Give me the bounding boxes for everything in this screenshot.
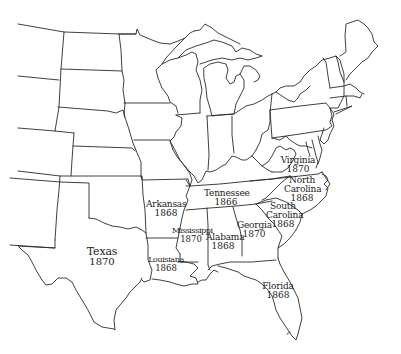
state-year: 1870 bbox=[82, 257, 122, 267]
state-year: 1870 bbox=[280, 165, 316, 174]
label-louisiana: Louisiana 1868 bbox=[146, 256, 186, 273]
state-year: 1868 bbox=[262, 291, 294, 300]
state-year: 1868 bbox=[146, 264, 186, 273]
state-year: 1868 bbox=[284, 194, 320, 203]
state-year: 1866 bbox=[204, 198, 248, 207]
label-north-carolina: North Carolina 1868 bbox=[284, 176, 320, 203]
plains-states-boundaries bbox=[10, 24, 142, 248]
label-texas: Texas 1870 bbox=[82, 246, 122, 267]
state-year: 1870 bbox=[172, 235, 210, 244]
state-year: 1868 bbox=[206, 242, 240, 251]
label-tennessee: Tennessee 1866 bbox=[204, 189, 248, 207]
label-arkansas: Arkansas 1868 bbox=[146, 200, 186, 218]
state-boundaries bbox=[0, 0, 401, 354]
state-year: 1870 bbox=[237, 230, 271, 239]
upper-midwest-boundaries bbox=[119, 24, 262, 158]
label-south-carolina: South Carolina 1868 bbox=[266, 202, 300, 229]
state-year: 1868 bbox=[146, 209, 186, 218]
state-year: 1868 bbox=[266, 220, 300, 229]
label-virginia: Virginia 1870 bbox=[280, 156, 316, 174]
michigan-boundaries bbox=[204, 62, 260, 116]
label-florida: Florida 1868 bbox=[262, 282, 294, 300]
label-mississippi: Mississippi 1870 bbox=[172, 227, 210, 244]
northeast-boundaries bbox=[270, 20, 378, 144]
reconstruction-readmission-map: Texas 1870 Arkansas 1868 Louisiana 1868 … bbox=[0, 0, 401, 354]
label-alabama: Alabama 1868 bbox=[206, 233, 240, 251]
